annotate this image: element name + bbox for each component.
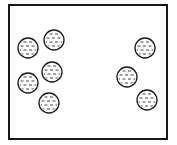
particle-left-3 (42, 62, 62, 82)
particle-left-1 (18, 38, 38, 58)
particle-right-2 (117, 67, 137, 87)
particle-left-2 (44, 30, 64, 50)
particle-right-1 (135, 38, 155, 58)
particle-right-3 (137, 90, 157, 110)
container-box (9, 5, 167, 139)
particle-left-4 (18, 73, 38, 93)
particle-left-5 (39, 93, 59, 113)
particle-diagram (0, 0, 177, 145)
